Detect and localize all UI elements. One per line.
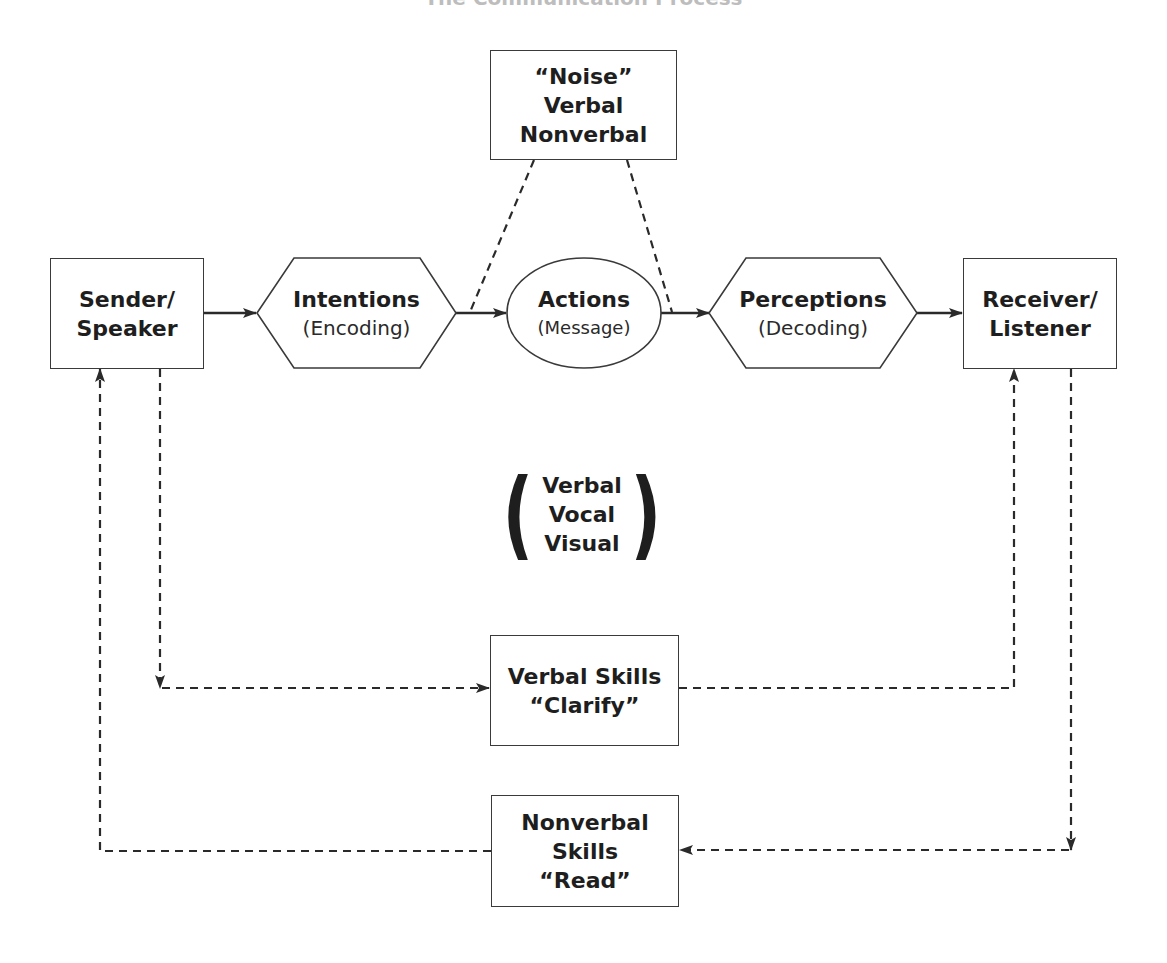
channel-visual: Visual [544, 529, 619, 558]
intentions-sub: (Encoding) [303, 314, 411, 342]
perceptions-sub: (Decoding) [758, 314, 868, 342]
nonverbal-skills-label-1: Nonverbal [521, 808, 648, 837]
sender-label-1: Sender/ [79, 285, 175, 314]
noise-label: “Noise” [534, 62, 632, 91]
arrow-nonverbal-skills-to-sender [100, 369, 491, 851]
open-paren: ( [503, 466, 534, 562]
channels-group: ( Verbal Vocal Visual ) [496, 452, 668, 576]
receiver-box: Receiver/ Listener [963, 258, 1117, 369]
sender-label-2: Speaker [76, 314, 177, 343]
actions-label: Actions [538, 285, 630, 314]
channel-vocal: Vocal [549, 500, 615, 529]
intentions-node: Intentions (Encoding) [257, 258, 456, 368]
noise-verbal: Verbal [544, 91, 624, 120]
nonverbal-skills-box: Nonverbal Skills “Read” [491, 795, 679, 907]
arrow-verbal-skills-to-receiver [679, 369, 1014, 688]
noise-nonverbal: Nonverbal [520, 120, 647, 149]
noise-box: “Noise” Verbal Nonverbal [490, 50, 677, 160]
channel-verbal: Verbal [542, 471, 622, 500]
receiver-label-2: Listener [989, 314, 1091, 343]
receiver-label-1: Receiver/ [982, 285, 1098, 314]
verbal-skills-label: Verbal Skills [508, 662, 662, 691]
intentions-label: Intentions [293, 285, 420, 314]
actions-node: Actions (Message) [507, 258, 661, 368]
perceptions-node: Perceptions (Decoding) [709, 258, 917, 368]
actions-sub: (Message) [538, 314, 631, 342]
verbal-skills-clarify: “Clarify” [530, 691, 640, 720]
sender-box: Sender/ Speaker [50, 258, 204, 369]
close-paren: ) [630, 466, 661, 562]
perceptions-label: Perceptions [739, 285, 887, 314]
verbal-skills-box: Verbal Skills “Clarify” [490, 635, 679, 746]
nonverbal-skills-read: “Read” [539, 866, 630, 895]
nonverbal-skills-label-2: Skills [552, 837, 618, 866]
